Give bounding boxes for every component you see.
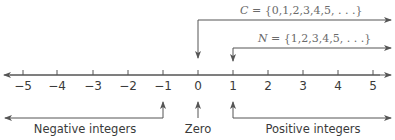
set-c-label: C = {0,1,2,3,4,5, . . .}	[240, 4, 363, 17]
tick-marks: −5−4−3−2−1012345	[14, 70, 377, 93]
tick-label: −4	[48, 79, 66, 93]
set-n-label: N = {1,2,3,4,5, . . .}	[257, 32, 371, 45]
number-line-diagram: C = {0,1,2,3,4,5, . . .} N = {1,2,3,4,5,…	[0, 0, 395, 140]
negative-integers-label: Negative integers	[34, 122, 136, 136]
positive-integers-label: Positive integers	[265, 122, 360, 136]
tick-label: −2	[119, 79, 137, 93]
negative-integers-indicator: Negative integers	[5, 102, 163, 136]
set-n-bracket: N = {1,2,3,4,5, . . .}	[233, 32, 391, 61]
tick-label: 0	[194, 79, 202, 93]
tick-label: 2	[264, 79, 272, 93]
zero-label: Zero	[185, 122, 211, 136]
set-c-bracket: C = {0,1,2,3,4,5, . . .}	[198, 4, 391, 58]
zero-indicator: Zero	[185, 102, 211, 136]
tick-label: 1	[229, 79, 237, 93]
number-line: −5−4−3−2−1012345	[4, 70, 391, 93]
tick-label: −5	[14, 79, 32, 93]
tick-label: 5	[369, 79, 377, 93]
tick-label: −3	[84, 79, 102, 93]
positive-integers-indicator: Positive integers	[233, 102, 391, 136]
tick-label: −1	[154, 79, 172, 93]
tick-label: 4	[334, 79, 342, 93]
tick-label: 3	[299, 79, 307, 93]
